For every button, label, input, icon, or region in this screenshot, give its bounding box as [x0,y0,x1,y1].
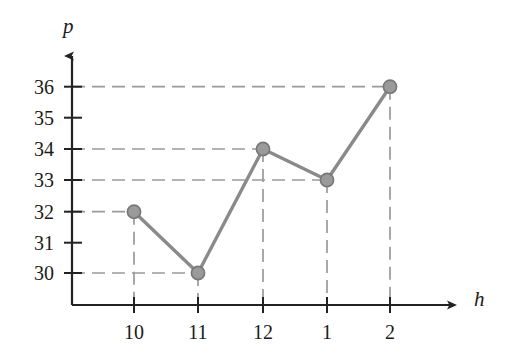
y-tick-label-35: 35 [14,108,54,128]
x-axis-label: h [474,289,485,310]
data-point-12-34 [256,142,269,155]
x-tick-label-1: 1 [307,322,347,342]
x-tick-label-10: 10 [114,322,154,342]
y-tick-label-32: 32 [14,202,54,222]
x-tick-label-2: 2 [370,322,410,342]
line-chart-canvas [0,0,505,361]
x-tick-label-12: 12 [243,322,283,342]
data-point-1-33 [320,173,333,186]
y-axis-label: p [63,16,74,37]
horizontal-guide-lines [72,87,390,273]
y-tick-label-30: 30 [14,263,54,283]
chart-figure: p h 36 35 34 33 32 31 30 10 11 12 1 2 [0,0,505,361]
data-point-2-36 [383,80,396,93]
y-tick-label-36: 36 [14,77,54,97]
data-point-11-30 [191,266,204,279]
data-point-10-32 [127,205,140,218]
y-tick-label-33: 33 [14,170,54,190]
x-tick-label-11: 11 [178,322,218,342]
y-tick-label-31: 31 [14,233,54,253]
y-tick-label-34: 34 [14,139,54,159]
